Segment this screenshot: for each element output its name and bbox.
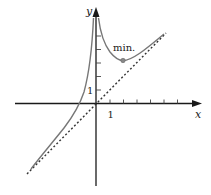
y-tick-label-1: 1 (87, 85, 93, 96)
x-axis-arrow-icon (192, 100, 202, 107)
minimum-point (121, 58, 125, 62)
curve-left-branch (31, 18, 94, 169)
y-axis-label: y (85, 5, 93, 18)
x-tick-label-1: 1 (108, 109, 114, 120)
y-ticks (96, 36, 101, 90)
minimum-label: min. (113, 42, 135, 53)
y-axis-arrow-icon (93, 7, 100, 17)
curve-right-branch (99, 18, 165, 61)
x-axis-label: x (195, 108, 202, 121)
function-graph: y x 1 1 min. (0, 0, 211, 195)
